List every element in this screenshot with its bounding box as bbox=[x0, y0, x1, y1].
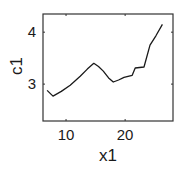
y-tick-label-3: 3 bbox=[28, 75, 36, 92]
x-tick-label-20: 20 bbox=[117, 126, 134, 143]
line-chart: 10 20 4 3 x1 c1 bbox=[0, 0, 185, 169]
y-tick-label-4: 4 bbox=[28, 23, 36, 40]
x-tick-label-10: 10 bbox=[58, 126, 75, 143]
plot-area bbox=[43, 14, 173, 121]
y-axis-label: c1 bbox=[7, 57, 26, 75]
x-axis-label: x1 bbox=[99, 146, 117, 165]
